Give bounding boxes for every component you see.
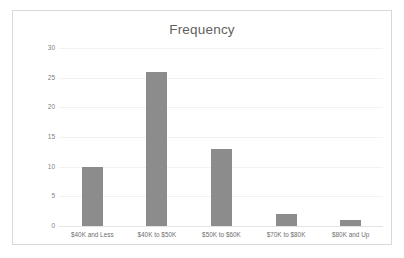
bar[interactable] — [211, 149, 232, 226]
chart-title: Frequency — [13, 22, 391, 37]
x-tick-label: $40K and Less — [60, 230, 125, 239]
y-tick-label: 10 — [41, 162, 55, 171]
bar-slot — [60, 48, 125, 226]
axis-baseline — [59, 226, 383, 227]
bar-slot — [318, 48, 383, 226]
y-tick-label: 20 — [41, 102, 55, 111]
y-tick-label: 30 — [41, 43, 55, 52]
bar[interactable] — [82, 167, 103, 226]
y-tick-label: 25 — [41, 73, 55, 82]
bar-series — [60, 48, 383, 226]
y-tick-label: 0 — [41, 221, 55, 230]
x-tick-label: $80K and Up — [318, 230, 383, 239]
bar[interactable] — [340, 220, 361, 226]
x-tick-label: $50K to $60K — [189, 230, 254, 239]
bar[interactable] — [146, 72, 167, 226]
y-tick-label: 5 — [41, 191, 55, 200]
bar-slot — [125, 48, 190, 226]
chart-container: Frequency 30 25 20 15 10 — [12, 10, 392, 245]
bar-slot — [254, 48, 319, 226]
x-axis: $40K and Less $40K to $50K $50K to $60K … — [60, 230, 383, 239]
bar[interactable] — [276, 214, 297, 226]
y-tick-label: 15 — [41, 132, 55, 141]
x-tick-label: $70K to $80K — [254, 230, 319, 239]
x-tick-label: $40K to $50K — [125, 230, 190, 239]
bar-slot — [189, 48, 254, 226]
plot-area: 30 25 20 15 10 5 — [41, 48, 383, 226]
